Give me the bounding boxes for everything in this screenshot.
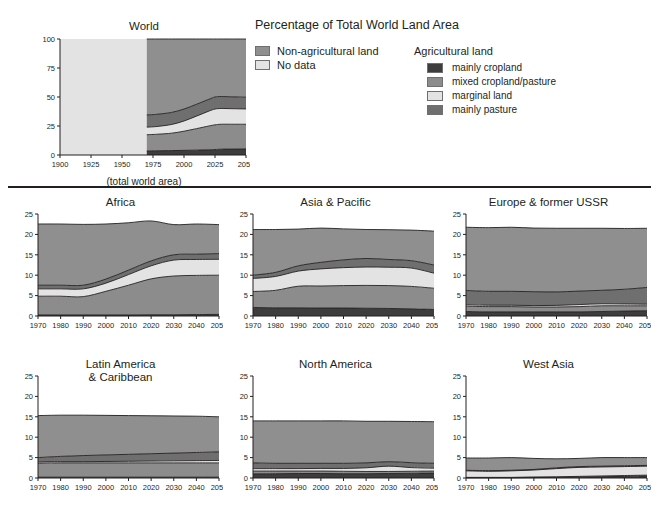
mainly-pasture-swatch-icon [427,105,443,115]
svg-text:2020: 2020 [143,321,160,330]
svg-text:2050: 2050 [639,321,651,330]
svg-text:0: 0 [457,474,461,483]
svg-text:5: 5 [244,291,248,300]
section-divider [8,186,651,188]
svg-text:2010: 2010 [120,483,137,492]
svg-text:0: 0 [244,312,248,321]
africa-chart-title: Africa [18,196,223,209]
svg-text:1980: 1980 [267,321,284,330]
non-agricultural-land-swatch-icon [255,46,270,56]
svg-text:2000: 2000 [526,321,543,330]
svg-text:25: 25 [240,210,248,219]
svg-text:10: 10 [240,271,248,280]
svg-text:2010: 2010 [120,321,137,330]
svg-text:2000: 2000 [526,483,543,492]
latin-america-caribbean-plot-area: 0510152025197019801990200020102020203020… [18,371,223,496]
svg-text:1980: 1980 [480,321,497,330]
svg-text:1970: 1970 [458,483,475,492]
svg-text:1980: 1980 [52,483,69,492]
north-america-plot-area: 0510152025197019801990200020102020203020… [233,371,438,496]
svg-text:1980: 1980 [267,483,284,492]
svg-text:1990: 1990 [75,483,92,492]
svg-text:1970: 1970 [245,321,262,330]
world-chart-title: World [38,20,250,33]
svg-text:0: 0 [457,312,461,321]
svg-text:5: 5 [457,453,461,462]
svg-text:1970: 1970 [30,483,47,492]
mixed-cropland-pasture-swatch-icon [427,77,443,87]
legend-item-no-data[interactable]: No data [255,59,405,71]
europe-former-ussr-chart-title: Europe & former USSR [446,196,651,209]
svg-text:75: 75 [47,64,55,73]
africa-plot-area: 0510152025197019801990200020102020203020… [18,209,223,334]
legend-item-mainly-cropland[interactable]: mainly cropland [427,62,556,73]
north-america-chart-panel: North America 05101520251970198019902000… [233,358,438,496]
svg-text:25: 25 [240,372,248,381]
legend-item-mainly-pasture[interactable]: mainly pasture [427,104,556,115]
legend-label-marginal-land: marginal land [452,90,512,101]
svg-text:25: 25 [47,122,55,131]
legend-label-non-agricultural-land: Non-agricultural land [277,45,379,57]
world-chart-panel: World 0255075100190019251950197520002025… [38,20,250,187]
svg-text:25: 25 [453,210,461,219]
svg-text:1925: 1925 [83,160,100,169]
svg-text:25: 25 [25,210,33,219]
west-asia-chart-panel: West Asia 051015202519701980199020002010… [446,358,651,496]
svg-text:2040: 2040 [188,483,205,492]
svg-text:1990: 1990 [290,321,307,330]
svg-text:2000: 2000 [313,483,330,492]
legend-primary-group: Non-agricultural land No data [255,45,405,118]
svg-text:2010: 2010 [548,321,565,330]
svg-text:15: 15 [240,413,248,422]
asia-pacific-plot-area: 0510152025197019801990200020102020203020… [233,209,438,334]
svg-text:15: 15 [25,251,33,260]
mainly-cropland-swatch-icon [427,63,443,73]
svg-text:1990: 1990 [503,483,520,492]
west-asia-plot-area: 0510152025197019801990200020102020203020… [446,371,651,496]
svg-text:25: 25 [25,372,33,381]
svg-text:2000: 2000 [176,160,193,169]
svg-text:2010: 2010 [335,483,352,492]
svg-text:0: 0 [51,151,55,160]
svg-text:15: 15 [240,251,248,260]
svg-text:5: 5 [29,291,33,300]
svg-text:2020: 2020 [358,321,375,330]
svg-text:20: 20 [240,392,248,401]
svg-text:2020: 2020 [358,483,375,492]
svg-text:2050: 2050 [426,483,438,492]
svg-text:5: 5 [29,453,33,462]
svg-text:10: 10 [25,271,33,280]
svg-text:2040: 2040 [403,321,420,330]
legend-item-non-agricultural-land[interactable]: Non-agricultural land [255,45,405,57]
asia-pacific-chart-title: Asia & Pacific [233,196,438,209]
svg-text:20: 20 [240,230,248,239]
svg-text:0: 0 [29,312,33,321]
legend-label-mixed-cropland-pasture: mixed cropland/pasture [452,76,556,87]
svg-text:20: 20 [25,392,33,401]
svg-text:100: 100 [42,35,55,44]
svg-text:1990: 1990 [503,321,520,330]
svg-text:1990: 1990 [290,483,307,492]
svg-text:5: 5 [457,291,461,300]
chart-legend: Percentage of Total World Land Area Non-… [255,18,556,118]
svg-text:2030: 2030 [380,483,397,492]
svg-text:2010: 2010 [335,321,352,330]
legend-item-mixed-cropland-pasture[interactable]: mixed cropland/pasture [427,76,556,87]
svg-text:10: 10 [453,271,461,280]
svg-text:2050: 2050 [211,321,223,330]
svg-text:2040: 2040 [616,483,633,492]
svg-text:2020: 2020 [571,483,588,492]
svg-text:1970: 1970 [458,321,475,330]
svg-text:5: 5 [244,453,248,462]
no-data-swatch-icon [255,60,270,70]
svg-text:20: 20 [453,230,461,239]
svg-text:2020: 2020 [571,321,588,330]
marginal-land-swatch-icon [427,91,443,101]
west-asia-chart-title: West Asia [446,358,651,371]
svg-text:10: 10 [240,433,248,442]
north-america-chart-title: North America [233,358,438,371]
legend-item-marginal-land[interactable]: marginal land [427,90,556,101]
svg-text:1990: 1990 [75,321,92,330]
svg-text:2040: 2040 [188,321,205,330]
svg-text:25: 25 [453,372,461,381]
